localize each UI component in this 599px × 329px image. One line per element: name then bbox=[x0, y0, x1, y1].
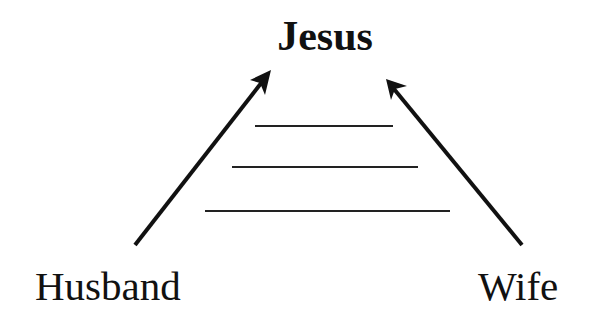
triangle-diagram: Jesus Husband Wife bbox=[0, 0, 599, 329]
husband-label: Husband bbox=[35, 263, 181, 309]
diagram-title: Jesus bbox=[277, 13, 373, 59]
wife-label: Wife bbox=[478, 263, 558, 309]
right-arrow-icon bbox=[386, 79, 522, 245]
left-arrow-icon bbox=[135, 70, 271, 245]
